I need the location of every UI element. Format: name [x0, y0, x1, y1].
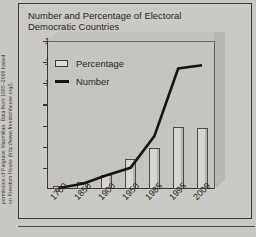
figure-frame: Number and Percentage of Electoral Democ…	[18, 3, 252, 219]
page-bottom-rule	[18, 226, 255, 227]
legend-item-number: Number	[55, 74, 124, 88]
legend-bar-swatch-icon	[55, 60, 68, 67]
legend-label-percentage: Percentage	[76, 58, 124, 69]
chart-legend: Percentage Number	[55, 56, 124, 92]
legend-label-number: Number	[76, 76, 109, 87]
credit-line-2: on Freedom House (http://www.freedomhous…	[7, 0, 14, 204]
legend-line-swatch-icon	[55, 80, 69, 83]
back-wall-right-edge	[214, 41, 215, 189]
credit-line-1: permission of Palgrave Macmillan. Data f…	[0, 0, 7, 204]
source-credit-sidebar: permission of Palgrave Macmillan. Data f…	[0, 0, 16, 205]
chart-right-face	[214, 32, 225, 189]
scan-background: permission of Palgrave Macmillan. Data f…	[0, 0, 256, 237]
legend-item-percentage: Percentage	[55, 56, 124, 70]
plot-wrapper: 020406080100120140 170018501900195019851…	[19, 4, 253, 220]
